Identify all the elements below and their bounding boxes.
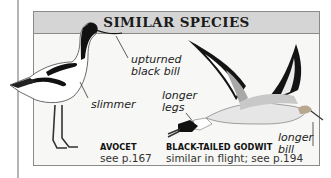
black-bill-label: black bill bbox=[131, 66, 180, 78]
godwit-name: BLACK-TAILED GODWIT bbox=[166, 142, 272, 152]
avocet-name: AVOCET bbox=[100, 142, 137, 152]
avocet-reference: see p.167 bbox=[100, 152, 152, 164]
godwit-reference: similar in flight; see p.194 bbox=[166, 152, 303, 164]
avocet-illustration bbox=[10, 23, 122, 148]
longer-legs-label-2: legs bbox=[162, 102, 185, 114]
bill-pointer bbox=[116, 36, 128, 58]
slimmer-label: slimmer bbox=[91, 99, 136, 111]
slimmer-pointer bbox=[80, 82, 88, 98]
